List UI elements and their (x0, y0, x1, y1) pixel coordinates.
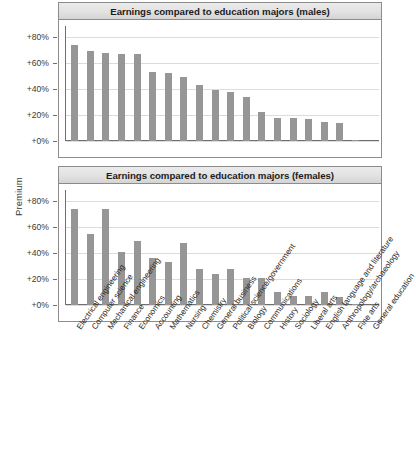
bar-series-females (67, 188, 379, 305)
y-tick-mark (53, 63, 57, 64)
y-tick-mark (53, 141, 57, 142)
bar-slot (98, 24, 114, 141)
bar-slot (270, 188, 286, 305)
bar (87, 51, 94, 141)
y-tick-label: +0% (32, 300, 49, 310)
bar-slot (223, 188, 239, 305)
chart-title-males: Earnings compared to education majors (m… (59, 3, 381, 20)
y-tick-label: +20% (27, 274, 49, 284)
bar-slot (363, 24, 379, 141)
bar-slot (129, 24, 145, 141)
bar-slot (207, 24, 223, 141)
y-tick-label: +20% (27, 110, 49, 120)
y-tick-label: +80% (27, 32, 49, 42)
y-tick-mark (53, 253, 57, 254)
y-tick-label: +80% (27, 196, 49, 206)
chart-title-females: Earnings compared to education majors (f… (59, 167, 381, 184)
bar-slot (223, 24, 239, 141)
bar (196, 85, 203, 141)
y-axis-line-females (65, 190, 66, 305)
bar-slot (254, 24, 270, 141)
y-tick-mark (53, 201, 57, 202)
bar (118, 54, 125, 141)
plot-area-males: +0%+20%+40%+60%+80% (59, 20, 381, 157)
y-tick-mark (53, 227, 57, 228)
bar (336, 123, 343, 141)
bar-slot (301, 188, 317, 305)
bar-slot (161, 24, 177, 141)
bar-slot (207, 188, 223, 305)
bar-slot (332, 188, 348, 305)
bar-slot (114, 24, 130, 141)
bar-slot (239, 24, 255, 141)
bar (305, 119, 312, 141)
gridline (66, 141, 379, 142)
bar-slot (192, 24, 208, 141)
bar-slot (145, 24, 161, 141)
y-tick-label: +0% (32, 136, 49, 146)
bar (243, 97, 250, 141)
bar (134, 54, 141, 141)
bar-slot (317, 24, 333, 141)
bar-slot (348, 24, 364, 141)
bar-slot (83, 24, 99, 141)
bar (212, 90, 219, 141)
y-tick-label: +60% (27, 58, 49, 68)
chart-panel-males: Earnings compared to education majors (m… (58, 2, 382, 158)
bar (352, 140, 359, 141)
bar-slot (301, 24, 317, 141)
y-tick-mark (53, 279, 57, 280)
y-tick-mark (53, 89, 57, 90)
bar (321, 122, 328, 142)
bar (71, 45, 78, 141)
bar (87, 234, 94, 306)
y-tick-mark (53, 37, 57, 38)
bar-slot (83, 188, 99, 305)
bar-slot (176, 24, 192, 141)
bar (71, 209, 78, 305)
bar (227, 92, 234, 141)
bar (258, 112, 265, 141)
bar (180, 77, 187, 141)
bar-series-males (67, 24, 379, 141)
bar-slot (161, 188, 177, 305)
y-tick-label: +40% (27, 248, 49, 258)
bar (274, 118, 281, 141)
bar-slot (285, 24, 301, 141)
bar-slot (67, 24, 83, 141)
bar-slot (145, 188, 161, 305)
y-tick-label: +40% (27, 84, 49, 94)
bar (102, 53, 109, 141)
bar-slot (176, 188, 192, 305)
y-tick-labels-males: +0%+20%+40%+60%+80% (9, 20, 55, 157)
y-axis-line-males (65, 26, 66, 141)
y-tick-mark (53, 115, 57, 116)
y-tick-mark (53, 305, 57, 306)
bar (290, 118, 297, 141)
x-axis-category-labels: Electrical engineeringComputer scienceMe… (58, 324, 382, 448)
bar (149, 72, 156, 141)
bar-slot (67, 188, 83, 305)
bar-slot (332, 24, 348, 141)
bar (165, 73, 172, 141)
y-tick-labels-females: +0%+20%+40%+60%+80% (9, 184, 55, 321)
bar-slot (317, 188, 333, 305)
y-tick-label: +60% (27, 222, 49, 232)
bar (180, 243, 187, 305)
bar-slot (270, 24, 286, 141)
